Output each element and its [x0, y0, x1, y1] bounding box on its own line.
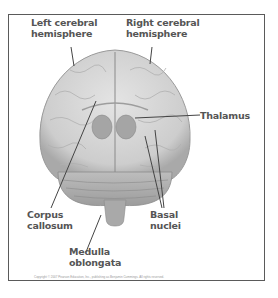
label-corpus-callosum: Corpus callosum — [27, 209, 73, 231]
leader-left-hemisphere — [71, 47, 74, 66]
label-line: Left cerebral — [31, 17, 97, 28]
label-line: hemisphere — [126, 28, 200, 39]
label-line: Corpus — [27, 209, 73, 220]
label-left-cerebral-hemisphere: Left cerebral hemisphere — [31, 17, 97, 39]
label-basal-nuclei: Basal nuclei — [150, 209, 181, 231]
copyright-notice: Copyright © 2007 Pearson Education, Inc.… — [34, 275, 164, 279]
label-line: oblongata — [69, 257, 121, 268]
label-line: Basal — [150, 209, 181, 220]
cerebrum — [40, 50, 190, 180]
label-medulla-oblongata: Medulla oblongata — [69, 246, 121, 268]
label-line: Right cerebral — [126, 17, 200, 28]
brainstem — [104, 200, 126, 226]
label-line: callosum — [27, 220, 73, 231]
label-line: nuclei — [150, 220, 181, 231]
label-right-cerebral-hemisphere: Right cerebral hemisphere — [126, 17, 200, 39]
label-line: hemisphere — [31, 28, 97, 39]
brain-illustration — [0, 0, 278, 298]
label-line: Medulla — [69, 246, 121, 257]
label-line: Thalamus — [200, 110, 250, 121]
label-thalamus: Thalamus — [200, 110, 250, 121]
